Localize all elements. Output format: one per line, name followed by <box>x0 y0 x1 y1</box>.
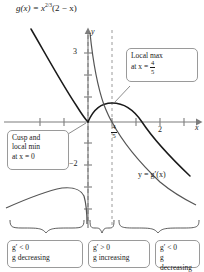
callout-local-max-line2: at x = 45 <box>131 60 193 75</box>
fraction-denominator: 5 <box>151 68 154 75</box>
curve-gprime-left-branch <box>6 188 87 224</box>
callout-cusp-line1: Cusp and <box>12 133 64 142</box>
callout-leader-local-max <box>114 86 130 103</box>
figure-title: g(x) = x2/3(2 − x) <box>16 3 77 13</box>
figure-title-rest: (2 − x) <box>52 3 77 13</box>
sign-box-interval-3: g′ < 0 g decreasing <box>155 240 200 268</box>
brace-interval-1 <box>10 220 84 233</box>
sign-box-3-behavior: g decreasing <box>160 253 195 272</box>
callout-cusp-local-min: Cusp and local min at x = 0 <box>7 130 69 170</box>
sign-box-3-derivative: g′ < 0 <box>160 243 195 253</box>
fraction-numerator: 4 <box>107 124 121 131</box>
x-tick-label-four-fifths: 4 5 <box>107 124 121 141</box>
callout-local-max-line1: Local max <box>131 51 193 60</box>
sign-box-1-derivative: g′ < 0 <box>12 243 78 253</box>
fraction-denominator: 5 <box>107 133 121 140</box>
callout-cusp-line2: local min <box>12 142 64 151</box>
curve-g-right-branch <box>88 103 190 176</box>
callout-local-max-prefix: at x = <box>131 63 150 72</box>
sign-box-1-behavior: g decreasing <box>12 253 78 263</box>
x-axis-label: x <box>195 124 199 132</box>
sign-box-interval-2: g′ > 0 g increasing <box>88 240 150 268</box>
x-tick-label-2: 2 <box>158 126 162 134</box>
curve-g-left-branch <box>31 29 88 122</box>
curve-label-g-prime: y = g′(x) <box>138 171 166 179</box>
y-tick-label-3: 3 <box>73 48 77 56</box>
sign-box-interval-1: g′ < 0 g decreasing <box>7 240 83 268</box>
callout-local-max: Local max at x = 45 <box>126 48 198 82</box>
brace-interval-3 <box>119 220 199 233</box>
y-tick-label-minus2: −2 <box>69 160 78 168</box>
sign-box-2-behavior: g increasing <box>93 253 145 263</box>
y-axis-label: y <box>91 28 95 36</box>
callout-local-max-fraction: 45 <box>150 60 155 75</box>
sign-box-2-derivative: g′ > 0 <box>93 243 145 253</box>
callout-cusp-line3: at x = 0 <box>12 152 64 161</box>
brace-interval-2 <box>90 220 114 233</box>
callout-leader-cusp <box>68 123 86 134</box>
figure-title-func: g(x) = x <box>16 3 45 13</box>
fraction-numerator: 4 <box>151 59 154 66</box>
